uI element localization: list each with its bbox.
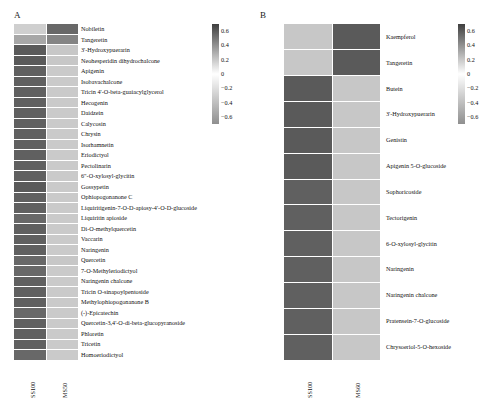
heatmap-cell	[14, 87, 47, 97]
heatmap-row	[14, 140, 78, 151]
heatmap-row	[14, 298, 78, 309]
heatmap-cell	[333, 335, 381, 360]
colorbar-tick: 0.6	[221, 28, 229, 34]
heatmap-cell	[47, 329, 79, 339]
heatmap-row	[14, 235, 78, 246]
heatmap-cell	[47, 77, 79, 87]
colorbar-tick: −0.2	[467, 85, 478, 91]
colorbar-gradient-b	[458, 24, 465, 124]
heatmap-cell	[14, 235, 47, 245]
heatmap-row	[14, 150, 78, 161]
heatmap-cell	[47, 161, 79, 171]
heatmap-cell	[47, 224, 79, 234]
heatmap-cell	[14, 66, 47, 76]
colorbar-tick: −0.2	[221, 85, 232, 91]
heatmap-row	[14, 87, 78, 98]
row-label: Pectolinarin	[81, 161, 246, 172]
heatmap-cell	[284, 257, 333, 282]
heatmap-cell	[14, 77, 47, 87]
row-label: Pratensein-7-O-glucoside	[386, 308, 496, 334]
row-label: Naringenin	[386, 257, 496, 283]
heatmap-cell	[47, 182, 79, 192]
heatmap-cell	[47, 98, 79, 108]
heatmap-row	[14, 319, 78, 330]
column-label: MS60	[354, 383, 361, 398]
row-label: Sophoricoside	[386, 179, 496, 205]
heatmap-row	[14, 329, 78, 340]
heatmap-cell	[333, 50, 381, 75]
heatmap-cell	[333, 283, 381, 308]
heatmap-cell	[47, 66, 79, 76]
heatmap-row	[284, 309, 380, 335]
heatmap-cell	[14, 119, 47, 129]
heatmap-cell	[47, 340, 79, 350]
heatmap-cell	[47, 319, 79, 329]
heatmap-cell	[14, 161, 47, 171]
heatmap-row	[14, 340, 78, 351]
heatmap-cell	[14, 266, 47, 276]
heatmap-row	[14, 214, 78, 225]
row-label: Liquiritigenin-7-O-D-apiosy-4'-O-D-gluco…	[81, 203, 246, 214]
row-label: (-)-Epicatechin	[81, 308, 246, 319]
heatmap-cell	[47, 150, 79, 160]
heatmap-cell	[333, 128, 381, 153]
row-label: Di-O-methylquercetin	[81, 224, 246, 235]
heatmap-row	[14, 171, 78, 182]
heatmap-cell	[14, 203, 47, 213]
heatmap-cell	[47, 266, 79, 276]
heatmap-cell	[14, 24, 47, 34]
heatmap-cell	[14, 193, 47, 203]
heatmap-row	[14, 256, 78, 267]
colorbar-panel-b: 0.60.40.20−0.2−0.4−0.6	[458, 24, 494, 124]
heatmap-row	[14, 308, 78, 319]
heatmap-cell	[284, 205, 333, 230]
heatmap-row	[14, 350, 78, 360]
heatmap-cell	[284, 128, 333, 153]
colorbar-gradient-a	[212, 24, 219, 124]
column-label: SS100	[29, 382, 36, 398]
row-label: Chrysoeriol-5-O-hexoside	[386, 334, 496, 360]
heatmap-cell	[14, 340, 47, 350]
row-label: Phloretin	[81, 329, 246, 340]
heatmap-row	[284, 180, 380, 206]
heatmap-cell	[47, 24, 79, 34]
panel-b-letter: B	[260, 10, 266, 20]
heatmap-row	[14, 35, 78, 46]
heatmap-cell	[14, 319, 47, 329]
heatmap-cell	[47, 87, 79, 97]
heatmap-cell	[284, 50, 333, 75]
column-labels-panel-b: SS100MS60	[284, 364, 380, 409]
colorbar-tick: −0.6	[221, 114, 232, 120]
heatmap-cell	[14, 140, 47, 150]
colorbar-ticks-b: 0.60.40.20−0.2−0.4−0.6	[467, 24, 493, 124]
row-label: Genistin	[386, 127, 496, 153]
heatmap-cell	[47, 245, 79, 255]
colorbar-tick: −0.6	[467, 114, 478, 120]
colorbar-tick: 0.6	[467, 28, 475, 34]
heatmap-cell	[333, 205, 381, 230]
heatmap-row	[14, 182, 78, 193]
heatmap-row	[284, 76, 380, 102]
heatmap-row	[14, 119, 78, 130]
heatmap-cell	[14, 108, 47, 118]
heatmap-row	[14, 277, 78, 288]
heatmap-cell	[333, 154, 381, 179]
heatmap-row	[14, 129, 78, 140]
colorbar-tick: −0.4	[221, 99, 232, 105]
row-label: Naringenin	[81, 245, 246, 256]
heatmap-row	[14, 224, 78, 235]
heatmap-row	[284, 257, 380, 283]
heatmap-cell	[14, 350, 47, 360]
heatmap-panel-a	[14, 24, 78, 360]
heatmap-cell	[14, 245, 47, 255]
heatmap-cell	[333, 102, 381, 127]
colorbar-tick: 0	[467, 71, 470, 77]
heatmap-cell	[14, 129, 47, 139]
row-label: Gossypetin	[81, 182, 246, 193]
heatmap-cell	[333, 76, 381, 101]
heatmap-cell	[14, 298, 47, 308]
colorbar-ticks-a: 0.60.40.20−0.2−0.4−0.6	[221, 24, 247, 124]
heatmap-row	[14, 98, 78, 109]
heatmap-cell	[47, 235, 79, 245]
heatmap-cell	[333, 257, 381, 282]
